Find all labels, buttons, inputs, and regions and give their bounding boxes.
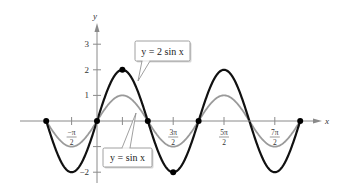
x-axis-label: x (324, 116, 329, 126)
callout-2sin-text: y = 2 sin x (141, 46, 183, 57)
y-tick-label: −2 (79, 167, 89, 177)
x-tick-label-den: 2 (171, 138, 175, 147)
y-tick-label: 1 (85, 90, 90, 100)
marked-point (94, 118, 100, 124)
x-tick-label-num: 5π (220, 128, 228, 137)
x-tick-label-den: 2 (273, 138, 277, 147)
marked-point (119, 67, 125, 73)
y-axis-label: y (92, 11, 97, 21)
y-axis-arrow-icon (95, 23, 100, 32)
marked-point (170, 169, 176, 175)
x-tick-label-num: −π (68, 128, 76, 137)
marked-point (196, 118, 202, 124)
y-tick-label: 3 (85, 39, 90, 49)
marked-point (297, 118, 303, 124)
callout-sin-pointer (122, 113, 136, 148)
x-tick-label-num: 7π (271, 128, 279, 137)
axes: xy321−2−π23π25π27π2 (20, 11, 329, 183)
x-tick-label-den: 2 (70, 138, 74, 147)
sine-chart: xy321−2−π23π25π27π2 y = 2 sin xy = sin x (0, 0, 344, 190)
x-tick-label-den: 2 (222, 138, 226, 147)
callout-sin-text: y = sin x (110, 152, 145, 163)
y-tick-label: 2 (85, 65, 90, 75)
x-axis-arrow-icon (313, 119, 322, 124)
marked-point (145, 118, 151, 124)
x-tick-label-num: 3π (169, 128, 177, 137)
marked-point (43, 118, 49, 124)
callout-2sin-pointer (138, 61, 150, 81)
callouts: y = 2 sin xy = sin x (103, 41, 192, 169)
